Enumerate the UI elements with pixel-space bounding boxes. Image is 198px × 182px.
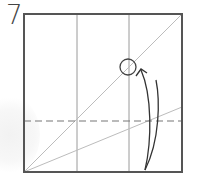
target-point-circle [120, 59, 136, 75]
fold-up-arrow [141, 70, 150, 170]
fold-diagram [0, 0, 198, 182]
